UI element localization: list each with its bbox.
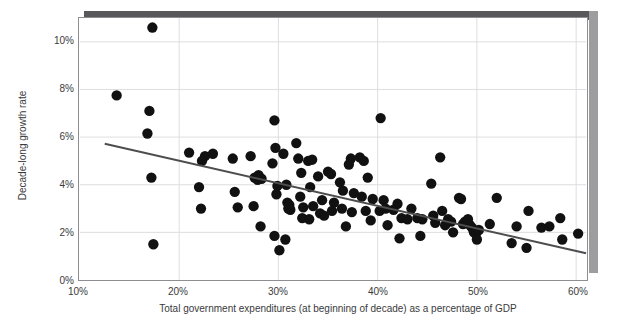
y-axis-title: Decade-long growth rate xyxy=(17,56,28,236)
y-tick-label: 10% xyxy=(30,36,74,46)
data-points-layer xyxy=(111,22,583,255)
trendline-layer xyxy=(105,144,586,254)
data-point xyxy=(523,206,533,216)
data-point xyxy=(269,231,279,241)
x-tick-label: 30% xyxy=(253,286,303,298)
data-point xyxy=(248,201,258,211)
data-point xyxy=(296,168,306,178)
x-axis-title-text: Total government expenditures (at beginn… xyxy=(103,303,516,314)
plot-canvas xyxy=(79,18,587,280)
data-point xyxy=(274,245,284,255)
data-point xyxy=(147,22,157,32)
data-point xyxy=(415,231,425,241)
data-point xyxy=(344,159,354,169)
y-tick-label: 4% xyxy=(30,180,74,190)
data-point xyxy=(317,195,327,205)
y-axis-tick-labels: 0%2%4%6%8%10% xyxy=(26,0,74,324)
data-point xyxy=(278,149,288,159)
data-point xyxy=(511,221,521,231)
data-point xyxy=(148,239,158,249)
data-point xyxy=(573,228,583,238)
plot-shadow-right xyxy=(589,11,598,273)
data-point xyxy=(448,227,458,237)
data-point xyxy=(375,113,385,123)
data-point xyxy=(521,243,531,253)
data-point xyxy=(435,152,445,162)
data-point xyxy=(230,187,240,197)
trendline xyxy=(105,144,586,254)
data-point xyxy=(144,106,154,116)
data-point xyxy=(363,172,373,182)
y-tick-label: 0% xyxy=(30,276,74,286)
data-point xyxy=(304,214,314,224)
data-point xyxy=(368,194,378,204)
data-point xyxy=(269,115,279,125)
data-point xyxy=(111,90,121,100)
data-point xyxy=(357,191,367,201)
data-point xyxy=(267,158,277,168)
data-point xyxy=(142,128,152,138)
data-point xyxy=(392,199,402,209)
data-point xyxy=(295,191,305,201)
data-point xyxy=(456,194,466,204)
data-point xyxy=(361,206,371,216)
data-point xyxy=(284,200,294,210)
y-tick-label: 8% xyxy=(30,84,74,94)
y-tick-label: 2% xyxy=(30,228,74,238)
data-point xyxy=(472,234,482,244)
x-tick-label: 60% xyxy=(553,286,603,298)
data-point xyxy=(437,206,447,216)
x-axis-tick-labels: 10%20%30%40%50%60% xyxy=(0,286,620,302)
x-tick-label: 40% xyxy=(353,286,403,298)
data-point xyxy=(485,219,495,229)
data-point xyxy=(382,220,392,230)
data-point xyxy=(347,207,357,217)
data-point xyxy=(555,213,565,223)
data-point xyxy=(506,238,516,248)
data-point xyxy=(194,182,204,192)
data-point xyxy=(327,206,337,216)
y-tick-label: 6% xyxy=(30,132,74,142)
x-tick-label: 10% xyxy=(53,286,103,298)
scatter-chart-figure: 0%2%4%6%8%10% 10%20%30%40%50%60% Total g… xyxy=(0,0,620,324)
data-point xyxy=(233,202,243,212)
data-point xyxy=(291,138,301,148)
data-point xyxy=(146,172,156,182)
x-tick-label: 20% xyxy=(153,286,203,298)
data-point xyxy=(338,186,348,196)
data-point xyxy=(313,171,323,181)
data-point xyxy=(426,178,436,188)
data-point xyxy=(492,193,502,203)
data-point xyxy=(245,151,255,161)
x-tick-label: 50% xyxy=(453,286,503,298)
data-point xyxy=(394,233,404,243)
data-point xyxy=(337,203,347,213)
data-point xyxy=(196,203,206,213)
data-point xyxy=(293,153,303,163)
data-point xyxy=(341,221,351,231)
data-point xyxy=(557,234,567,244)
data-point xyxy=(402,214,412,224)
plot-area xyxy=(78,17,588,281)
data-point xyxy=(366,215,376,225)
data-point xyxy=(326,169,336,179)
data-point xyxy=(359,156,369,166)
data-point xyxy=(228,153,238,163)
data-point xyxy=(184,147,194,157)
data-point xyxy=(307,155,317,165)
data-point xyxy=(298,202,308,212)
x-axis-title: Total government expenditures (at beginn… xyxy=(0,303,620,314)
data-point xyxy=(544,221,554,231)
data-point xyxy=(255,221,265,231)
data-point xyxy=(280,234,290,244)
data-point xyxy=(208,149,218,159)
